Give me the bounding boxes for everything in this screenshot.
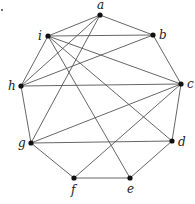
node-label-c: c [187,77,194,91]
node-g [28,140,33,145]
node-e [127,175,132,180]
edge-d-e [130,141,172,178]
node-label-b: b [159,28,167,42]
node-i [45,33,50,38]
edge-d-g [31,141,172,143]
edge-a-b [100,15,153,35]
edge-f-g [31,143,74,178]
node-c [178,81,183,86]
node-f [71,175,76,180]
edge-b-c [153,35,181,84]
edge-h-i [21,36,48,86]
edge-c-h [21,84,181,86]
node-b [150,32,155,37]
edge-c-i [48,36,181,84]
edge-c-d [172,84,181,141]
edge-g-h [21,86,31,143]
node-a [97,12,102,17]
edge-e-i [48,36,130,178]
edges-group [21,15,181,178]
node-label-g: g [18,136,26,150]
graph-diagram: abcdefghi [0,0,195,204]
corner-mark [1,9,3,11]
node-label-d: d [178,135,186,149]
node-label-f: f [70,183,78,197]
node-label-a: a [97,0,104,12]
edge-b-i [48,35,153,36]
edge-a-i [48,15,100,36]
node-label-i: i [38,29,42,43]
node-label-e: e [127,182,134,196]
node-label-h: h [8,79,16,93]
labels-group: abcdefghi [8,0,194,197]
edge-c-f [74,84,181,178]
edge-c-g [31,84,181,143]
node-h [18,83,23,88]
node-d [169,138,174,143]
